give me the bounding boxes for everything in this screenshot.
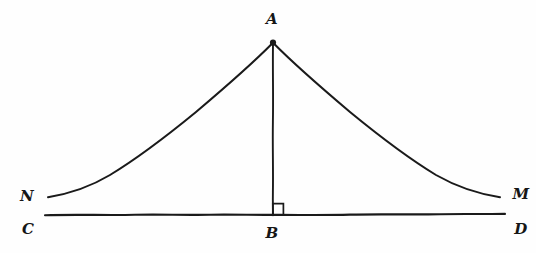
curve-AM xyxy=(274,44,500,198)
vertex-dot-A-icon xyxy=(270,40,276,46)
geometry-figure xyxy=(0,0,536,253)
curve-AN xyxy=(48,44,272,198)
vertex-label-B: B xyxy=(266,226,279,241)
vertex-label-N: N xyxy=(20,189,34,204)
diagram-page: A B C D N M xyxy=(0,0,536,253)
right-angle-marker-icon xyxy=(273,204,284,215)
vertex-label-M: M xyxy=(513,187,530,202)
vertex-label-D: D xyxy=(514,222,527,237)
segment-CD-baseline xyxy=(45,214,505,215)
vertex-label-A: A xyxy=(266,12,278,27)
vertex-label-C: C xyxy=(22,222,34,237)
